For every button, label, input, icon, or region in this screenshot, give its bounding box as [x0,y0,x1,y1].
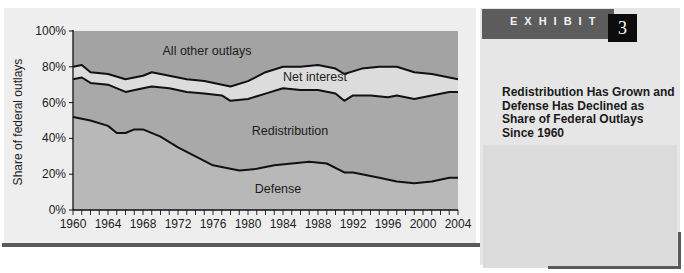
label-net-interest: Net interest [283,70,347,84]
label-all-other-outlays: All other outlays [163,44,252,58]
stacked-area-chart: 0%20%40%60%80%100%1960196419681972197619… [0,0,684,273]
y-tick-label: 0% [49,203,67,217]
label-defense: Defense [255,182,302,196]
x-tick-label: 2000 [410,217,437,231]
x-tick-label: 1980 [235,217,262,231]
x-tick-label: 1960 [60,217,87,231]
x-tick-label: 1976 [200,217,227,231]
y-tick-label: 60% [42,96,66,110]
label-redistribution: Redistribution [252,124,328,138]
x-tick-label: 2004 [445,217,472,231]
y-tick-label: 20% [42,167,66,181]
y-tick-label: 40% [42,131,66,145]
y-tick-label: 100% [35,24,66,38]
y-axis-label: Share of federal outlays [11,59,25,186]
y-tick-label: 80% [42,60,66,74]
x-tick-label: 1996 [375,217,402,231]
x-tick-label: 1984 [270,217,297,231]
x-tick-label: 1964 [95,217,122,231]
x-tick-label: 1992 [340,217,367,231]
x-tick-label: 1988 [305,217,332,231]
x-tick-label: 1968 [130,217,157,231]
x-tick-label: 1972 [165,217,192,231]
